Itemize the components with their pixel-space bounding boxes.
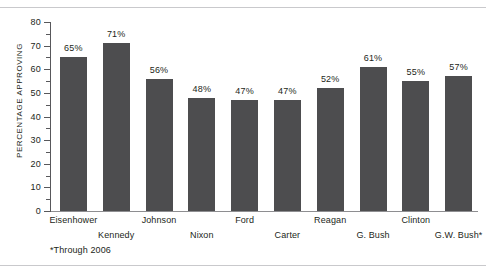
x-axis-category-label: Reagan: [287, 215, 373, 225]
bar[interactable]: [188, 98, 215, 211]
plot-area: 65%71%56%48%47%47%52%61%55%57%: [50, 22, 478, 211]
top-divider-rule: [0, 7, 486, 8]
x-axis-line: [50, 211, 478, 212]
chart-figure: 01020304050607080 PERCENTAGE APPROVING 6…: [0, 0, 486, 273]
bar-value-label: 47%: [226, 87, 263, 96]
x-axis-category-label: Kennedy: [73, 230, 159, 240]
x-axis-category-label: Nixon: [159, 230, 245, 240]
bar[interactable]: [360, 67, 387, 211]
bar-group: 61%: [355, 22, 392, 211]
x-axis-category-label: Johnson: [116, 215, 202, 225]
bar-value-label: 57%: [440, 63, 477, 72]
bar-group: 48%: [183, 22, 220, 211]
bar[interactable]: [317, 88, 344, 211]
bar-value-label: 55%: [397, 68, 434, 77]
bar[interactable]: [146, 79, 173, 211]
bar-value-label: 47%: [269, 87, 306, 96]
bar-value-label: 61%: [355, 54, 392, 63]
x-axis-category-label: G.W. Bush*: [416, 230, 486, 240]
y-axis-major-tick: [44, 211, 51, 212]
x-axis-category-label: Carter: [244, 230, 330, 240]
bar-value-label: 71%: [98, 30, 135, 39]
y-axis-title: PERCENTAGE APPROVING: [15, 26, 24, 176]
x-axis-category-label: G. Bush: [330, 230, 416, 240]
bar-group: 52%: [312, 22, 349, 211]
chart-footnote: *Through 2006: [50, 245, 111, 255]
bar-group: 56%: [141, 22, 178, 211]
bar[interactable]: [103, 43, 130, 211]
bottom-divider-rule: [0, 265, 486, 266]
bar-value-label: 48%: [183, 85, 220, 94]
bar-group: 47%: [269, 22, 306, 211]
bar[interactable]: [231, 100, 258, 211]
x-axis-category-label: Eisenhower: [30, 215, 116, 225]
bar-group: 71%: [98, 22, 135, 211]
bar-group: 57%: [440, 22, 477, 211]
bar-value-label: 65%: [55, 44, 92, 53]
y-axis-tick-label: 10: [11, 183, 41, 192]
bar-group: 47%: [226, 22, 263, 211]
bar-value-label: 56%: [141, 66, 178, 75]
bar[interactable]: [274, 100, 301, 211]
bar[interactable]: [60, 57, 87, 211]
x-axis-category-label: Ford: [202, 215, 288, 225]
x-axis-category-label: Clinton: [373, 215, 459, 225]
bar[interactable]: [445, 76, 472, 211]
bar-value-label: 52%: [312, 75, 349, 84]
bar-group: 55%: [397, 22, 434, 211]
bar[interactable]: [402, 81, 429, 211]
bar-group: 65%: [55, 22, 92, 211]
